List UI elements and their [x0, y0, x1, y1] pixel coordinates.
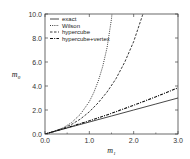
y-tick-label: 6.0	[32, 59, 42, 66]
y-tick-label: 8.0	[32, 35, 42, 42]
x-tick-label: 3.0	[173, 137, 183, 144]
x-tick-label: 1.0	[84, 137, 94, 144]
legend-label: Wilson	[62, 23, 80, 29]
legend-label: hypercube+vertex	[62, 36, 110, 42]
legend-label: exact	[62, 16, 77, 22]
x-tick-label: 2.0	[129, 137, 139, 144]
legend-item: exact	[50, 16, 77, 22]
legend-item: hypercube+vertex	[50, 36, 110, 42]
y-axis-label: m0	[12, 70, 21, 80]
y-tick-label: 0.0	[32, 131, 42, 138]
y-tick-label: 10.0	[28, 11, 42, 18]
y-tick-label: 2.0	[32, 107, 42, 114]
legend-item: hypercube	[50, 29, 91, 35]
ticks-layer: 0.01.02.03.00.02.04.06.08.010.0	[28, 11, 183, 145]
series-line-hypercube	[45, 14, 143, 134]
plot-area: 0.01.02.03.00.02.04.06.08.010.0	[28, 11, 183, 145]
y-tick-label: 4.0	[32, 83, 42, 90]
legend-label: hypercube	[62, 29, 91, 35]
x-tick-label: 0.0	[40, 137, 50, 144]
chart: 0.01.02.03.00.02.04.06.08.010.0 exactWil…	[0, 0, 190, 159]
x-axis-label: m1	[107, 146, 115, 156]
legend: exactWilsonhypercubehypercube+vertex	[50, 16, 110, 42]
legend-item: Wilson	[50, 23, 80, 29]
